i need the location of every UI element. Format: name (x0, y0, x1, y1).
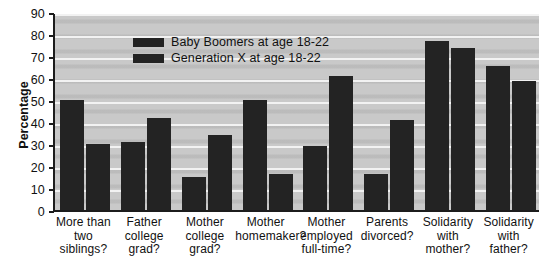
x-axis-label-line: Mother (235, 216, 296, 230)
y-tick-label: 10 (31, 183, 45, 197)
x-axis-label-line: Mother (296, 216, 357, 230)
chart-legend: Baby Boomers at age 18-22 Generation X a… (133, 35, 329, 65)
x-axis-label-line: full-time? (296, 243, 357, 257)
x-axis-label-line: mother? (418, 243, 479, 257)
x-axis-label-line: employed (296, 230, 357, 244)
y-tick-label: 30 (31, 139, 45, 153)
y-axis: Percentage 0102030405060708090 (0, 0, 53, 214)
x-axis-category-label: Mothercollegegrad? (175, 216, 236, 257)
bar (451, 48, 475, 210)
x-axis-label-line: Father (114, 216, 175, 230)
x-axis-label-line: Mother (175, 216, 236, 230)
bar (390, 120, 414, 210)
legend-swatch-icon (133, 38, 164, 47)
y-tick-label: 90 (31, 7, 45, 21)
bar (269, 174, 293, 210)
x-axis-category-label: Motheremployedfull-time? (296, 216, 357, 257)
bar (364, 174, 388, 210)
bar (303, 146, 327, 210)
x-axis-label-line: college (114, 230, 175, 244)
y-tick-label: 40 (31, 117, 45, 131)
x-axis-category-label: Fathercollegegrad? (114, 216, 175, 257)
legend-label: Baby Boomers at age 18-22 (171, 35, 329, 49)
x-axis-label-line: More than (53, 216, 114, 230)
y-tick-label: 0 (38, 205, 45, 219)
plot-area: Baby Boomers at age 18-22 Generation X a… (53, 14, 539, 212)
bar (486, 66, 510, 210)
bar (208, 135, 232, 210)
x-axis-label-line: homemaker? (235, 230, 296, 244)
bar (121, 142, 145, 210)
legend-item-generation-x: Generation X at age 18-22 (133, 51, 329, 65)
x-axis-label-line: Parents (357, 216, 418, 230)
x-axis-label-line: Solidarity (418, 216, 479, 230)
y-tick-label: 70 (31, 51, 45, 65)
legend-item-baby-boomers: Baby Boomers at age 18-22 (133, 35, 329, 49)
y-tick-label: 20 (31, 161, 45, 175)
x-axis-label-line: two siblings? (53, 230, 114, 257)
x-axis-label-line: college (175, 230, 236, 244)
x-axis-label-line: father? (478, 243, 539, 257)
x-axis-label-line: with (478, 230, 539, 244)
legend-label: Generation X at age 18-22 (171, 51, 321, 65)
legend-swatch-icon (133, 54, 164, 63)
x-axis-label-line: divorced? (357, 230, 418, 244)
bar (147, 118, 171, 210)
x-axis-labels: More thantwo siblings?Fathercollegegrad?… (53, 216, 539, 274)
x-axis-category-label: Solidaritywithmother? (418, 216, 479, 257)
bar (60, 100, 84, 210)
x-axis-category-label: Solidaritywithfather? (478, 216, 539, 257)
y-tick-label: 50 (31, 95, 45, 109)
y-axis-title: Percentage (17, 55, 31, 175)
bar (86, 144, 110, 210)
x-axis-category-label: Motherhomemaker? (235, 216, 296, 243)
x-axis-label-line: Solidarity (478, 216, 539, 230)
y-tick-label: 80 (31, 29, 45, 43)
bar (243, 100, 267, 210)
y-tick-label: 60 (31, 73, 45, 87)
x-axis-category-label: Parentsdivorced? (357, 216, 418, 243)
x-axis-category-label: More thantwo siblings? (53, 216, 114, 257)
x-axis-label-line: with (418, 230, 479, 244)
bar (425, 41, 449, 210)
x-axis-label-line: grad? (114, 243, 175, 257)
x-axis-label-line: grad? (175, 243, 236, 257)
bar-chart: Percentage 0102030405060708090 Baby Boom… (0, 0, 550, 275)
bar (512, 81, 536, 210)
bar (329, 76, 353, 210)
bar (182, 177, 206, 210)
